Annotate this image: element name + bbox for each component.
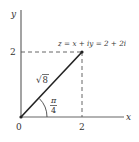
sqrt-symbol: √	[36, 75, 42, 85]
y-tick-label: 2	[10, 47, 16, 57]
y-axis-label: y	[10, 9, 17, 19]
origin-point	[19, 115, 22, 118]
complex-plane-diagram: y 2 0 2 x z = x + iy = 2 + 2i √ 8 π 4	[0, 0, 139, 142]
x-axis-label: x	[126, 112, 131, 122]
angle-numerator: π	[50, 96, 57, 105]
angle-denominator: 4	[51, 106, 56, 115]
origin-label: 0	[16, 122, 22, 132]
z-equation-label: z = x + iy = 2 + 2i	[57, 39, 126, 48]
modulus-value: 8	[43, 75, 48, 85]
angle-arc	[39, 99, 47, 117]
x-tick-label: 2	[79, 122, 85, 132]
z-point	[80, 50, 83, 53]
